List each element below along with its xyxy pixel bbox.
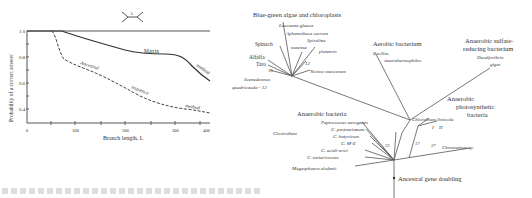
inset-label: L (131, 11, 134, 16)
taxon-label: Nostoc muscorum (309, 69, 346, 74)
matrix-method-line (27, 31, 210, 81)
taxon-label: Chromatium sp. (442, 145, 474, 150)
y-tick-label: 0.6 (19, 81, 26, 86)
taxon-label: 15 (268, 68, 274, 73)
x-tick-label: 200 (122, 128, 130, 133)
taxon-label: maxima (291, 45, 307, 50)
phylogenetic-tree: Blue-green algae and chloroplasts Aerobi… (232, 11, 513, 198)
y-tick-label: 0.4 (19, 107, 26, 112)
taxon-label: platensis (318, 49, 337, 54)
taxon-label: 17 (415, 141, 420, 146)
group-label: bacteria (467, 111, 488, 118)
taxon-label: Bacillus (373, 51, 389, 56)
taxon-label: I (431, 125, 434, 130)
x-tick-label: 100 (72, 128, 80, 133)
taxon-label: Alfalfa (249, 54, 265, 60)
y-tick-label: 1.0 (19, 29, 26, 34)
curve-label: Matrix (144, 48, 159, 54)
taxon-label: 23 (385, 143, 390, 148)
x-tick-label: 0 (26, 128, 29, 133)
taxon-label: Clostridium (273, 131, 297, 136)
group-label: Aerobic bacterium (373, 40, 422, 47)
taxon-label: C. acidi-urici (321, 148, 349, 153)
taxon-label: Peptococcus aerogenes (320, 120, 368, 125)
taxon-label: Leucaena glauca (278, 23, 314, 28)
group-label: Anaerobic (447, 95, 474, 102)
taxon-label: II (438, 125, 443, 130)
taxon-label: C. M-E (341, 141, 356, 146)
taxon-label: 27 (431, 143, 436, 148)
taxon-label: stearothermophilus (384, 58, 421, 63)
ancestral-method-line (52, 31, 210, 113)
x-axis-label: Branch length, L (103, 135, 144, 141)
curve-label: Ancestral (79, 60, 100, 71)
group-label: reducing bacterium (463, 45, 513, 52)
figure-caption (2, 188, 262, 194)
taxon-label: Desulfovibrio (476, 55, 504, 60)
figure-canvas: L 1.0 0.8 0.6 0.4 0 (0, 0, 532, 198)
axes (27, 31, 210, 123)
y-axis-label: Probability of a correct answer (8, 54, 14, 122)
y-tick-label: 0.8 (19, 55, 26, 60)
x-tick-label: 300 (172, 128, 180, 133)
taxon-label: Megasphaera elsdenii (291, 166, 337, 171)
curve-label: sequence (131, 84, 151, 96)
taxon-label: Spirulina (307, 38, 326, 43)
taxon-label: quadricauda - 12 (232, 85, 267, 90)
group-label: Ancestral gene doubling (398, 175, 462, 182)
taxon-label: C. pasteurianum (331, 127, 365, 132)
taxon-label: 12 (305, 61, 311, 66)
taxon-label: Aphanothece sacrum (285, 31, 328, 36)
taxon-label: Taro (256, 61, 266, 67)
gene-doubling-node-icon (393, 177, 395, 179)
taxon-label: C. butyricum (333, 134, 359, 139)
taxon-label: gigas (490, 62, 501, 67)
taxon-label: Spinach (255, 41, 273, 47)
curve-label: method (195, 63, 211, 76)
x-tick-label: 400 (203, 128, 211, 133)
group-label: Anaerobic sulfate- (465, 37, 513, 44)
taxon-label: Scenedesmus (244, 77, 270, 82)
curve-label: method (185, 103, 201, 111)
group-label: Anaerobic bacteria (297, 110, 346, 117)
line-chart: L 1.0 0.8 0.6 0.4 0 (8, 11, 211, 141)
taxon-label: C. tartarivorum (307, 155, 339, 160)
taxon-label: Chlorobium limicola (412, 117, 454, 122)
group-label: photosynthetic (456, 103, 494, 110)
group-label: Blue-green algae and chloroplasts (253, 11, 342, 18)
